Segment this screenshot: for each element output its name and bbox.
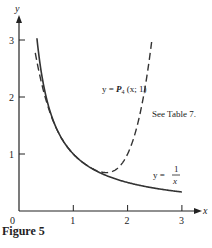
x-axis-arrow-icon: [194, 208, 202, 214]
y-tick-label: 3: [9, 35, 14, 46]
x-tick-label: 3: [179, 215, 184, 226]
reciprocal-label-lhs: y =: [153, 170, 165, 180]
x-tick-label: 2: [125, 215, 130, 226]
y-axis-label: y: [14, 3, 20, 14]
y-tick-label: 1: [9, 149, 14, 160]
reciprocal-label-den: x: [172, 176, 177, 186]
reciprocal-label-num: 1: [174, 164, 179, 174]
see-table-note: See Table 7.: [152, 109, 196, 119]
series-taylor-p4: [35, 39, 152, 173]
y-axis-arrow-icon: [16, 15, 22, 23]
y-tick-label: 2: [9, 92, 14, 103]
x-tick-label: 1: [70, 215, 75, 226]
chart: x y 0 123123 y = P4 (x; 1) See Table 7. …: [0, 0, 212, 248]
annotations: y = P4 (x; 1) See Table 7. y = 1 x: [102, 84, 196, 186]
p4-label: y = P4 (x; 1): [102, 84, 147, 95]
figure-caption: Figure 5: [2, 224, 45, 239]
x-axis-label: x: [202, 205, 208, 216]
